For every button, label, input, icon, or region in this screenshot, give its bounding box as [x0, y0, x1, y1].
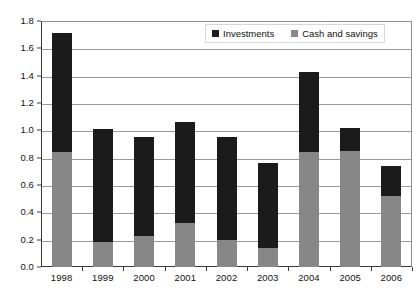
x-axis-tick — [371, 267, 372, 271]
bar-segment-investments — [175, 122, 195, 223]
bar-segment-investments — [299, 72, 319, 153]
legend: Investments Cash and savings — [205, 24, 385, 43]
bar-segment-investments — [340, 128, 360, 151]
x-axis-tick-label: 2006 — [381, 273, 403, 283]
x-axis-tick — [82, 267, 83, 271]
x-axis-tick-label: 1998 — [51, 273, 73, 283]
bar-segment-cash-and-savings — [93, 242, 113, 267]
x-axis-tick — [123, 267, 124, 271]
x-axis-tick-label: 2004 — [298, 273, 320, 283]
bar-segment-investments — [93, 129, 113, 242]
x-axis-tick — [412, 267, 413, 271]
bars-layer — [0, 0, 420, 303]
x-axis-tick — [247, 267, 248, 271]
x-axis-tick-label: 2005 — [339, 273, 361, 283]
bar-segment-cash-and-savings — [340, 151, 360, 267]
x-axis-tick — [330, 267, 331, 271]
legend-label-investments: Investments — [223, 29, 274, 39]
x-axis-tick — [206, 267, 207, 271]
x-axis-tick-label: 2000 — [133, 273, 155, 283]
bar-1999 — [93, 129, 113, 267]
bar-chart: 0.00.20.40.60.81.01.21.41.61.8 199819992… — [0, 0, 420, 303]
x-axis-tick-label: 1999 — [92, 273, 114, 283]
bar-2006 — [381, 166, 401, 267]
bar-segment-investments — [381, 166, 401, 196]
bar-segment-investments — [52, 33, 72, 152]
legend-item-cash-and-savings: Cash and savings — [291, 29, 378, 39]
bar-2002 — [217, 137, 237, 267]
black-square-icon — [212, 30, 219, 37]
bar-segment-investments — [217, 137, 237, 240]
bar-2000 — [134, 137, 154, 267]
x-axis-tick-label: 2001 — [174, 273, 196, 283]
bar-segment-cash-and-savings — [381, 196, 401, 267]
bar-segment-investments — [134, 137, 154, 235]
x-axis-tick — [288, 267, 289, 271]
bar-2003 — [258, 163, 278, 267]
bar-segment-cash-and-savings — [134, 236, 154, 267]
legend-item-investments: Investments — [212, 29, 274, 39]
bar-segment-cash-and-savings — [52, 152, 72, 267]
bar-2001 — [175, 122, 195, 267]
bar-2005 — [340, 128, 360, 267]
legend-label-cash-and-savings: Cash and savings — [302, 29, 378, 39]
x-axis-tick-label: 2003 — [257, 273, 279, 283]
bar-segment-cash-and-savings — [175, 223, 195, 267]
bar-segment-cash-and-savings — [299, 152, 319, 267]
bar-segment-cash-and-savings — [217, 240, 237, 267]
bar-segment-cash-and-savings — [258, 248, 278, 267]
bar-2004 — [299, 72, 319, 267]
gray-square-icon — [291, 30, 298, 37]
bar-segment-investments — [258, 163, 278, 248]
caption-strip — [0, 294, 420, 303]
bar-1998 — [52, 33, 72, 267]
x-axis-tick — [165, 267, 166, 271]
x-axis-tick-label: 2002 — [216, 273, 238, 283]
